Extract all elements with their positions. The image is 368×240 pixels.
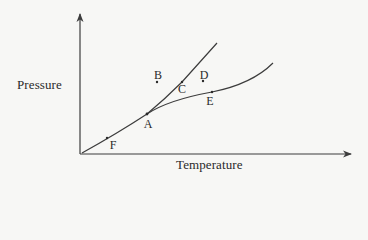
y-axis-label: Pressure: [17, 77, 62, 93]
point-a-label: A: [144, 118, 153, 130]
point-a-dot: [146, 113, 149, 116]
point-e-dot: [211, 91, 213, 93]
point-e-label: E: [206, 95, 213, 107]
point-f-label: F: [110, 139, 117, 151]
point-f-dot: [106, 137, 108, 139]
point-d-label: D: [200, 69, 209, 81]
point-b-label: B: [154, 69, 162, 81]
x-axis-label: Temperature: [176, 157, 243, 173]
point-c-label: C: [178, 83, 186, 95]
